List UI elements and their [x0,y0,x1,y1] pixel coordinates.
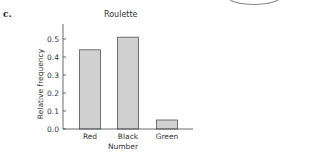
y-tick-label: 0.4 [47,53,59,62]
x-tick-label: Green [156,132,179,141]
y-tick-label: 0.5 [47,35,59,44]
x-axis: RedBlackGreen [63,129,193,141]
x-tick-label: Red [83,132,97,141]
y-tick-label: 0.3 [47,71,59,80]
y-axis: 0.00.10.20.30.40.5 [47,24,66,134]
bar-red [80,50,101,129]
y-tick-label: 0.0 [47,125,59,134]
bar-chart: 0.00.10.20.30.40.5 RedBlackGreen Relativ… [0,0,314,160]
x-axis-title: Number [108,142,139,151]
y-tick-label: 0.1 [47,107,59,116]
y-axis-title: Relative frequency [36,48,45,119]
y-tick-label: 0.2 [47,89,59,98]
bar-black [118,37,139,129]
x-tick-label: Black [118,132,139,141]
bars [80,37,178,129]
bar-green [157,120,178,129]
